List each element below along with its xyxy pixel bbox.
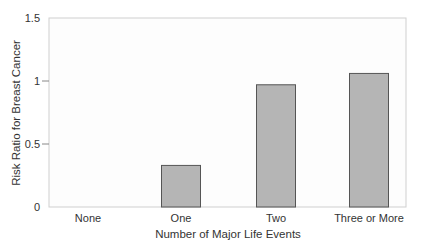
x-tick-label: None <box>75 212 101 224</box>
bar-two <box>257 85 296 207</box>
bar-three-or-more <box>350 73 389 207</box>
bar-one <box>162 165 201 207</box>
x-axis-title: Number of Major Life Events <box>155 228 301 240</box>
x-tick-label: Three or More <box>334 212 404 224</box>
y-axis-title: Risk Ratio for Breast Cancer <box>10 40 22 186</box>
y-axis: 00.511.5 <box>25 12 49 213</box>
y-tick-label: 1 <box>34 75 40 87</box>
bar-chart: 00.511.5 NoneOneTwoThree or More Risk Ra… <box>0 0 425 248</box>
y-tick-label: 0 <box>34 201 40 213</box>
x-tick-label: One <box>171 212 192 224</box>
x-tick-label: Two <box>266 212 286 224</box>
y-tick-label: 0.5 <box>25 138 40 150</box>
y-tick-label: 1.5 <box>25 12 40 24</box>
x-axis: NoneOneTwoThree or More <box>75 212 404 224</box>
